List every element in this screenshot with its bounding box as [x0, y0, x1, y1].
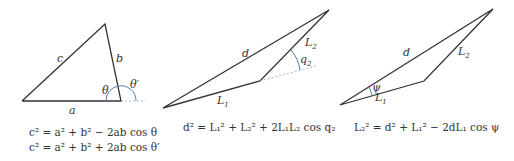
- angle-label-psi: ψ: [372, 81, 381, 94]
- angle-label-theta-prime: θ′: [130, 78, 140, 91]
- side-label-L2: L2: [304, 36, 317, 51]
- arm-triangle-psi: [340, 9, 493, 105]
- side-label-b: b: [116, 52, 123, 65]
- side-label-a: a: [69, 104, 76, 117]
- angle-label-theta: θ: [102, 84, 109, 97]
- triangle-panel-1: c b a θ θ′: [22, 24, 146, 117]
- side-label-d: d: [403, 46, 410, 59]
- side-label-L1: L1: [216, 94, 229, 109]
- equation-law-of-cosines-theta-prime: c² = a² + b² + 2ab cos θ′: [29, 141, 160, 153]
- arm-panel-3: d L1 L2 ψ: [340, 9, 493, 106]
- side-label-L2: L2: [457, 45, 470, 60]
- q2-arc: [291, 50, 300, 70]
- equation-d-squared: d² = L₁² + L₂² + 2L₁L₂ cos q₂: [183, 121, 335, 133]
- equation-law-of-cosines-theta: c² = a² + b² − 2ab cos θ: [29, 126, 157, 138]
- extension-dashed-line: [260, 66, 316, 81]
- equation-L2-squared: L₂² = d² + L₁² − 2dL₁ cos ψ: [354, 121, 499, 133]
- angle-label-q2: q2: [300, 53, 312, 68]
- side-label-d: d: [242, 47, 249, 60]
- arm-panel-2: d L1 L2 q2: [163, 10, 329, 109]
- side-label-c: c: [57, 52, 63, 65]
